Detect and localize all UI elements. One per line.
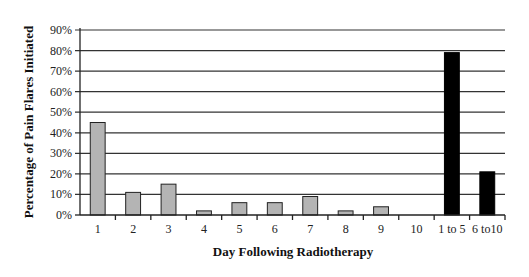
x-tick-label: 6 to10 xyxy=(472,222,502,236)
y-tick-label: 60% xyxy=(50,85,72,99)
x-tick-label: 1 xyxy=(95,222,101,236)
x-tick-label: 1 to 5 xyxy=(438,222,465,236)
bar-3 xyxy=(161,184,176,215)
x-tick-label: 5 xyxy=(236,222,242,236)
gridlines xyxy=(75,30,505,215)
bar-6-to10 xyxy=(480,172,495,215)
axes xyxy=(80,28,505,220)
bar-6 xyxy=(267,203,282,215)
x-tick-label: 9 xyxy=(378,222,384,236)
x-tick-labels: 123456789101 to 56 to10 xyxy=(95,222,503,236)
y-tick-label: 0% xyxy=(56,208,72,222)
y-tick-labels: 0%10%20%30%40%50%60%70%80%90% xyxy=(50,23,72,222)
y-tick-label: 50% xyxy=(50,105,72,119)
bar-9 xyxy=(374,207,389,215)
x-tick-label: 8 xyxy=(343,222,349,236)
x-axis-title: Day Following Radiotherapy xyxy=(213,244,374,259)
y-tick-label: 80% xyxy=(50,44,72,58)
x-tick-label: 6 xyxy=(272,222,278,236)
bar-2 xyxy=(126,192,141,215)
bar-5 xyxy=(232,203,247,215)
y-tick-label: 90% xyxy=(50,23,72,37)
bar-1-to-5 xyxy=(444,53,459,215)
bar-chart: 0%10%20%30%40%50%60%70%80%90% 1234567891… xyxy=(0,0,529,277)
y-tick-label: 70% xyxy=(50,64,72,78)
x-tick-label: 7 xyxy=(307,222,313,236)
x-tick-label: 2 xyxy=(130,222,136,236)
bars xyxy=(90,53,494,215)
y-tick-label: 40% xyxy=(50,126,72,140)
bar-1 xyxy=(90,123,105,216)
bar-7 xyxy=(303,197,318,216)
y-tick-label: 30% xyxy=(50,146,72,160)
y-tick-label: 10% xyxy=(50,187,72,201)
x-tick-label: 3 xyxy=(166,222,172,236)
y-axis-title: Percentage of Pain Flares Initiated xyxy=(21,25,36,218)
x-tick-label: 4 xyxy=(201,222,207,236)
y-tick-label: 20% xyxy=(50,167,72,181)
x-tick-label: 10 xyxy=(410,222,422,236)
